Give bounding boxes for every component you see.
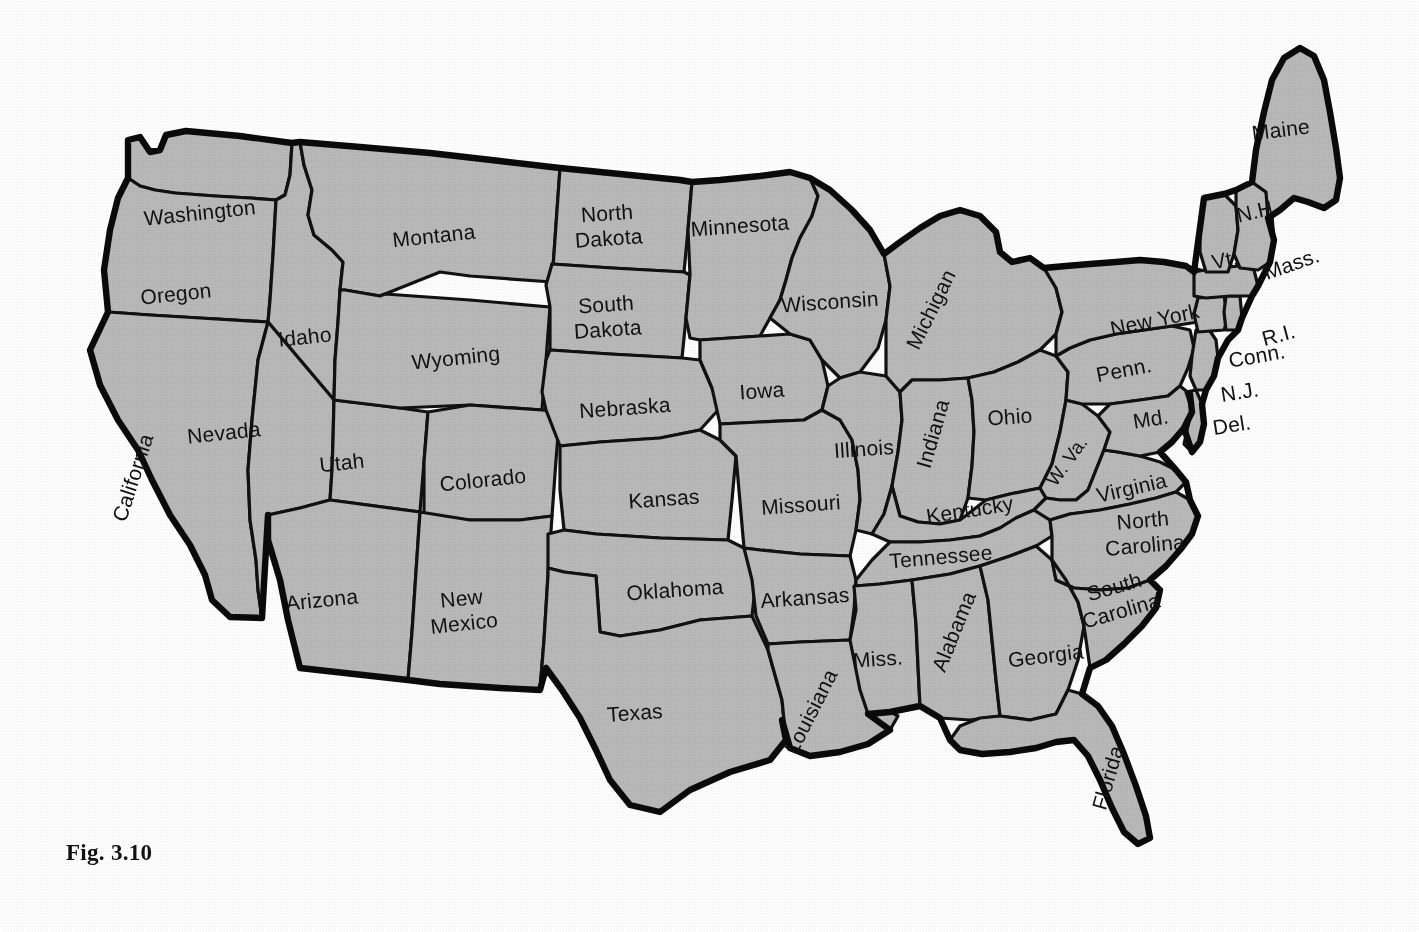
state-label-line: North bbox=[1116, 506, 1170, 533]
state-label-line: South bbox=[577, 290, 634, 317]
state-label-line: New bbox=[439, 584, 484, 611]
state-label-line: Miss. bbox=[852, 645, 903, 671]
state-label-ohio: Ohio bbox=[987, 403, 1034, 429]
state-label-mississippi: Miss. bbox=[852, 645, 903, 671]
us-states-map-figure: WashingtonOregonCaliforniaNevadaIdahoMon… bbox=[0, 0, 1419, 932]
state-label-new-jersey: N.J. bbox=[1219, 377, 1260, 406]
figure-caption: Fig. 3.10 bbox=[66, 840, 152, 866]
state-kansas[interactable] bbox=[560, 430, 736, 540]
state-california[interactable] bbox=[90, 312, 268, 618]
state-missouri[interactable] bbox=[720, 410, 860, 556]
state-label-line: Dakota bbox=[574, 224, 643, 252]
state-label-line: Del. bbox=[1211, 410, 1252, 439]
state-label-line: Conn. bbox=[1227, 339, 1287, 372]
state-label-line: Ohio bbox=[987, 403, 1034, 429]
state-shapes-group bbox=[90, 48, 1340, 844]
state-label-line: Iowa bbox=[739, 377, 786, 403]
state-label-line: Utah bbox=[318, 448, 365, 476]
state-label-delaware: Del. bbox=[1211, 410, 1252, 439]
state-label-line: Dakota bbox=[573, 315, 642, 343]
state-label-texas: Texas bbox=[606, 699, 663, 726]
state-label-line: N.J. bbox=[1219, 377, 1260, 406]
state-label-line: Texas bbox=[606, 699, 663, 726]
state-label-line: North bbox=[580, 199, 634, 226]
state-label-connecticut: Conn. bbox=[1227, 339, 1287, 372]
state-colorado[interactable] bbox=[424, 405, 560, 520]
state-label-illinois: Illinois bbox=[833, 434, 894, 461]
us-map-svg: WashingtonOregonCaliforniaNevadaIdahoMon… bbox=[0, 0, 1419, 932]
state-label-line: Illinois bbox=[833, 434, 894, 461]
state-label-utah: Utah bbox=[318, 448, 365, 476]
state-label-iowa: Iowa bbox=[739, 377, 786, 403]
